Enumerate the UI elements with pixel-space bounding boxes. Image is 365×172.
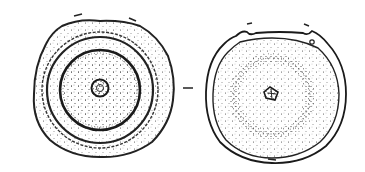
left-disc bbox=[34, 14, 174, 157]
illustration-figure bbox=[0, 0, 365, 172]
right-disc bbox=[206, 23, 346, 163]
